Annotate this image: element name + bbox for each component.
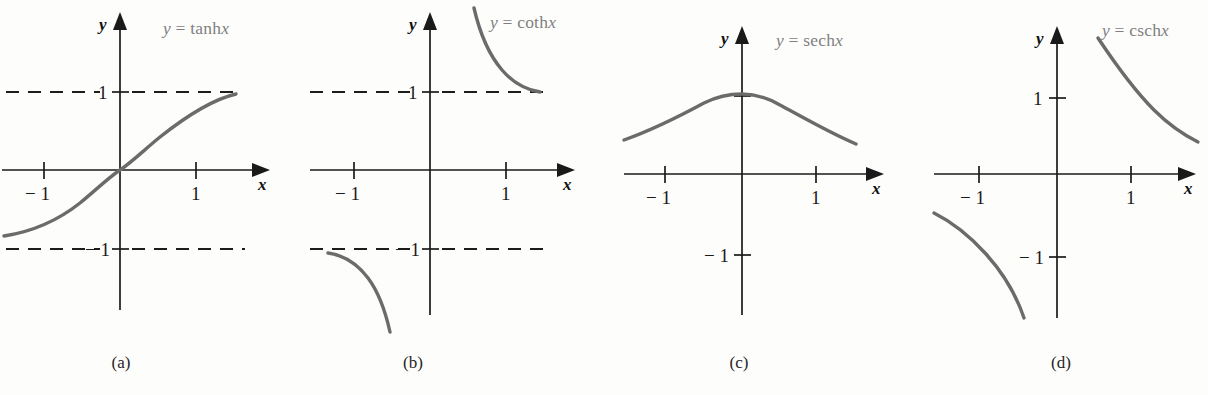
y-tick-label-1: 1 [1033, 88, 1043, 109]
x-tick-label-1: 1 [191, 183, 201, 204]
panel-d-csch: y x − 1 1 1 − 1 y = cschx (d) [906, 0, 1208, 395]
panel-caption-b: (b) [262, 353, 564, 373]
equation-fn-a: tanh [190, 18, 221, 38]
curve-csch-negative [934, 213, 1024, 318]
equation-eq-d: = [1115, 20, 1125, 40]
y-tick-label-1: 1 [98, 82, 108, 103]
panel-c-sech: y x − 1 1 − 1 y = sechx (c) [604, 0, 906, 395]
y-tick-label-minus1: − 1 [1019, 247, 1044, 268]
y-axis-label: y [1034, 29, 1044, 48]
equation-label-b: y = cothx [490, 12, 556, 33]
x-axis-label: x [257, 175, 267, 194]
y-axis-label: y [719, 29, 729, 48]
equation-eq-a: = [176, 18, 186, 38]
equation-label-d: y = cschx [1102, 20, 1169, 41]
hyperbolic-functions-figure: y x − 1 1 1 − 1 y = tanhx (a) [0, 0, 1208, 395]
equation-lhs-a: y [163, 18, 171, 38]
y-axis-label: y [97, 15, 107, 34]
equation-fn-d: csch [1129, 20, 1161, 40]
panel-c-plot: y x − 1 1 − 1 [604, 0, 906, 340]
y-tick-label-minus1: − 1 [704, 245, 729, 266]
curve-coth-negative [328, 253, 390, 332]
panel-caption-a: (a) [0, 353, 272, 373]
x-axis-label: x [871, 179, 881, 198]
curve-csch-positive [1098, 38, 1198, 142]
x-axis-label: x [562, 175, 572, 194]
curve-sech [624, 94, 856, 144]
panel-b-coth: y x − 1 1 1 − 1 y = cothx (b) [302, 0, 604, 395]
y-axis-label: y [407, 15, 417, 34]
y-axis-arrow-icon [735, 26, 749, 44]
equation-eq-b: = [503, 12, 513, 32]
equation-eq-c: = [789, 30, 799, 50]
equation-lhs-d: y [1102, 20, 1110, 40]
y-tick-label-1: 1 [408, 82, 418, 103]
panel-b-plot: y x − 1 1 1 − 1 [302, 0, 604, 340]
panel-caption-c: (c) [588, 353, 890, 373]
x-tick-label-minus1: − 1 [25, 183, 50, 204]
y-axis-arrow-icon [1050, 26, 1064, 44]
panel-d-plot: y x − 1 1 1 − 1 [906, 0, 1208, 340]
x-tick-label-1: 1 [811, 187, 821, 208]
equation-arg-c: x [835, 30, 843, 50]
y-tick-label-minus1: − 1 [85, 239, 110, 260]
equation-fn-c: sech [803, 30, 835, 50]
x-tick-label-1: 1 [1126, 187, 1136, 208]
y-axis-arrow-icon [113, 12, 127, 30]
x-tick-label-1: 1 [501, 183, 511, 204]
equation-arg-a: x [221, 18, 229, 38]
equation-lhs-b: y [490, 12, 498, 32]
equation-arg-d: x [1161, 20, 1169, 40]
equation-lhs-c: y [776, 30, 784, 50]
x-tick-label-minus1: − 1 [960, 187, 985, 208]
equation-label-a: y = tanhx [163, 18, 229, 39]
panel-caption-d: (d) [910, 353, 1208, 373]
equation-label-c: y = sechx [776, 30, 843, 51]
x-tick-label-minus1: − 1 [335, 183, 360, 204]
panel-a-tanh: y x − 1 1 1 − 1 y = tanhx (a) [0, 0, 302, 395]
equation-arg-b: x [548, 12, 556, 32]
panel-a-plot: y x − 1 1 1 − 1 [0, 0, 302, 340]
x-tick-label-minus1: − 1 [646, 187, 671, 208]
x-axis-label: x [1183, 179, 1193, 198]
y-axis-arrow-icon [423, 12, 437, 30]
y-tick-label-minus1: − 1 [395, 239, 420, 260]
equation-fn-b: coth [517, 12, 548, 32]
